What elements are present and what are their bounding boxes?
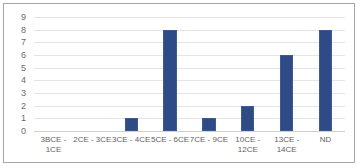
gridline-0 xyxy=(34,131,345,132)
bar-slot xyxy=(306,17,345,131)
bar-slot xyxy=(151,17,190,131)
y-tick-label-5: 5 xyxy=(21,63,26,72)
y-tick-label-8: 8 xyxy=(21,25,26,34)
bar[interactable] xyxy=(163,30,176,131)
x-category-label: 5CE - 6CE xyxy=(151,133,190,161)
chart-plot-container: 9876543210 3BCE - 1CE2CE - 3CE3CE - 4CE5… xyxy=(4,4,354,162)
y-tick-label-3: 3 xyxy=(21,89,26,98)
y-tick-label-2: 2 xyxy=(21,101,26,110)
y-tick-label-9: 9 xyxy=(21,13,26,22)
x-category-label: 7CE - 9CE xyxy=(190,133,229,161)
y-tick-label-0: 0 xyxy=(21,127,26,136)
bar-slot xyxy=(34,17,73,131)
y-axis-tick-labels: 9876543210 xyxy=(4,17,31,131)
bar-slot xyxy=(267,17,306,131)
bar[interactable] xyxy=(319,30,332,131)
chart-frame: 9876543210 3BCE - 1CE2CE - 3CE3CE - 4CE5… xyxy=(3,3,355,163)
bar-slot xyxy=(228,17,267,131)
bar-slot xyxy=(73,17,112,131)
y-tick-label-4: 4 xyxy=(21,76,26,85)
plot-area xyxy=(34,17,345,131)
bar-series xyxy=(34,17,345,131)
bar[interactable] xyxy=(202,118,215,131)
bar-slot xyxy=(112,17,151,131)
x-category-label: 2CE - 3CE xyxy=(73,133,112,161)
x-category-label: ND xyxy=(306,133,345,161)
bar[interactable] xyxy=(125,118,138,131)
y-tick-label-1: 1 xyxy=(21,114,26,123)
y-tick-label-7: 7 xyxy=(21,38,26,47)
x-axis-category-labels: 3BCE - 1CE2CE - 3CE3CE - 4CE5CE - 6CE7CE… xyxy=(34,133,345,161)
x-category-label: 3BCE - 1CE xyxy=(34,133,73,161)
x-category-label: 10CE - 12CE xyxy=(228,133,267,161)
bar[interactable] xyxy=(241,106,254,131)
bar-slot xyxy=(190,17,229,131)
bar[interactable] xyxy=(280,55,293,131)
x-category-label: 13CE - 14CE xyxy=(267,133,306,161)
y-tick-label-6: 6 xyxy=(21,51,26,60)
x-category-label: 3CE - 4CE xyxy=(112,133,151,161)
